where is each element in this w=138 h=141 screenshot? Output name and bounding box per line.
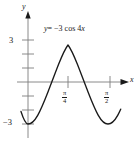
equation-label: y= −3 cos 4x	[44, 25, 85, 33]
equation-rhs-prefix: −3 cos 4	[52, 24, 81, 33]
fraction-numerator: π	[104, 90, 109, 97]
curve-negative-three-cos-four-x	[21, 45, 121, 124]
fraction-pi-over-two: π 2	[104, 90, 109, 105]
x-axis-label: x	[130, 76, 134, 84]
graph-figure: y x 3 −3 y= −3 cos 4x π 4 π 2	[0, 0, 138, 141]
y-tick-label-negative-3: −3	[3, 118, 12, 127]
plot-canvas	[0, 0, 138, 141]
x-axis-arrowhead	[121, 79, 130, 85]
fraction-denominator: 4	[62, 97, 67, 105]
equation-variable: x	[81, 24, 85, 33]
fraction-pi-over-four: π 4	[62, 90, 67, 105]
fraction-denominator: 2	[104, 97, 109, 105]
fraction-numerator: π	[62, 90, 67, 97]
x-tick-label-pi-over-four: π 4	[62, 88, 67, 105]
y-axis-label: y	[22, 3, 26, 11]
y-axis-arrowhead	[25, 11, 30, 19]
x-tick-label-pi-over-two: π 2	[104, 88, 109, 105]
y-tick-label-3: 3	[9, 36, 13, 45]
